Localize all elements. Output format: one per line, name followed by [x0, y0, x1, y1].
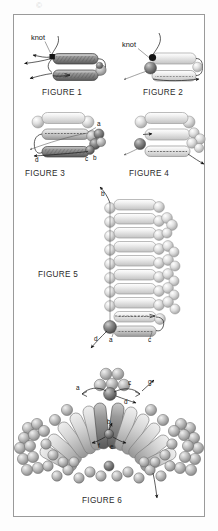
- fig4-sphere-knot: [134, 138, 145, 149]
- fig6-label-c: c: [128, 379, 132, 386]
- figure-1-caption: FIGURE 1: [42, 88, 82, 97]
- figure-2-caption: FIGURE 2: [143, 88, 183, 97]
- fig5-sphere-knot: [104, 321, 117, 334]
- figure-1-graphic: knot FIGURE 1: [25, 33, 107, 97]
- figure-6-graphic: a c d g b f e FIGURE 6: [14, 368, 203, 505]
- fig1-rod-upper: [53, 54, 98, 65]
- fig6-label-e: e: [110, 443, 114, 450]
- fig6-label-a: a: [76, 384, 80, 391]
- fig1-sphere-right-small: [96, 62, 103, 69]
- fig6-label-f: f: [98, 442, 100, 449]
- figure-2-graphic: knot FIGURE 2: [122, 33, 203, 97]
- figure-3-caption: FIGURE 3: [25, 169, 65, 178]
- fig3-label-b: b: [93, 154, 97, 161]
- fig4-rod-top: [145, 113, 188, 124]
- fig5-label-b: b: [101, 190, 105, 197]
- fig6-sphere-inner-knot: [104, 429, 113, 438]
- fig4-rod-middle: [145, 129, 190, 140]
- fig2-knot-node: [149, 54, 156, 61]
- figure-4-caption: FIGURE 4: [129, 169, 169, 178]
- patent-drawing-sheet: ©: [0, 0, 218, 531]
- figure-5-graphic: b d a c FIGURE 5: [38, 187, 180, 348]
- fig5-label-d: d: [94, 335, 98, 342]
- fig2-rod-upper: [152, 53, 196, 64]
- fig6-top-sphere-triad: [94, 368, 130, 400]
- fig1-rod-lower: [53, 70, 98, 81]
- figure-4-graphic: FIGURE 4: [124, 113, 205, 179]
- fig6-label-d: d: [124, 398, 128, 405]
- fig2-sphere-right: [193, 62, 203, 72]
- fig6-label-b: b: [107, 418, 111, 425]
- fig5-label-c: c: [148, 336, 152, 343]
- fig1-knot-label: knot: [31, 33, 45, 42]
- fig6-label-g: g: [148, 378, 152, 386]
- drawing-canvas: knot FIGURE 1 knot FIGURE 2: [0, 0, 218, 531]
- figure-3-graphic: a b c d FIGURE 3: [25, 113, 106, 179]
- fig3-rod-top: [42, 113, 85, 124]
- fig2-sphere-left: [145, 62, 157, 74]
- fig3-label-c: c: [85, 155, 89, 162]
- fig5-label-a: a: [109, 336, 113, 343]
- fig3-label-d: d: [35, 156, 39, 163]
- fig2-knot-label: knot: [122, 40, 136, 49]
- fig3-label-a: a: [97, 120, 101, 127]
- figure-5-caption: FIGURE 5: [38, 270, 78, 279]
- figure-6-caption: FIGURE 6: [82, 496, 122, 505]
- fig2-rod-lower: [152, 71, 196, 82]
